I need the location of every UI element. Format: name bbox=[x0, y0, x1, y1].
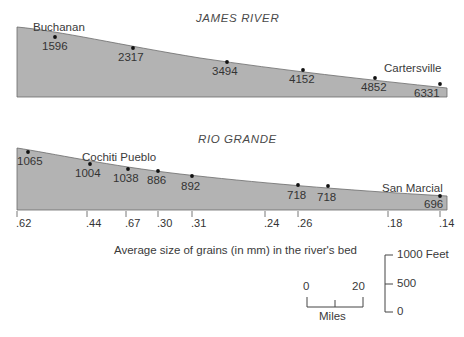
grain-size-tick-label: .67 bbox=[125, 218, 140, 229]
james-river-point-marker bbox=[225, 60, 229, 64]
james-river-value-label: 4152 bbox=[289, 74, 315, 86]
miles-scale-unit-label: Miles bbox=[319, 311, 346, 323]
rio-grande-value-label: 696 bbox=[424, 199, 443, 211]
rio-grande-place-san-marcial: San Marcial bbox=[382, 183, 443, 195]
figure-caption: Average size of grains (in mm) in the ri… bbox=[114, 245, 357, 257]
james-river-point-marker bbox=[438, 82, 442, 86]
rio-grande-place-cochiti-pueblo: Cochiti Pueblo bbox=[82, 152, 156, 164]
james-river-value-label: 6331 bbox=[414, 88, 440, 100]
grain-size-tick-label: .24 bbox=[264, 218, 279, 229]
grain-size-tick-label: .26 bbox=[297, 218, 312, 229]
grain-size-tick-label: .62 bbox=[16, 218, 31, 229]
feet-scale-label-0: 0 bbox=[397, 306, 403, 318]
river-profile-figure: JAMES RIVER Buchanan Cartersville 159623… bbox=[0, 0, 464, 337]
grain-size-tick-marks bbox=[17, 211, 440, 217]
grain-size-tick-label: .30 bbox=[157, 218, 172, 229]
james-river-place-buchanan: Buchanan bbox=[33, 22, 85, 34]
rio-grande-value-label: 1065 bbox=[17, 156, 43, 168]
grain-size-tick-label: .18 bbox=[387, 218, 402, 229]
rio-grande-point-marker bbox=[156, 169, 160, 173]
rio-grande-point-marker bbox=[26, 150, 30, 154]
james-river-point-marker bbox=[131, 46, 135, 50]
rio-grande-point-marker bbox=[296, 183, 300, 187]
feet-scale-bar bbox=[385, 255, 393, 312]
profile-vector-layer bbox=[0, 0, 464, 337]
feet-scale-label-1000: 1000 Feet bbox=[397, 249, 449, 261]
james-river-point-marker bbox=[301, 68, 305, 72]
miles-scale-max-label: 20 bbox=[352, 281, 365, 293]
rio-grande-point-marker bbox=[126, 167, 130, 171]
james-river-point-marker bbox=[373, 76, 377, 80]
miles-scale-bar bbox=[307, 297, 363, 307]
rio-grande-value-label: 718 bbox=[317, 192, 336, 204]
rio-grande-point-marker bbox=[190, 174, 194, 178]
feet-scale-label-500: 500 bbox=[397, 278, 416, 290]
james-river-value-label: 2317 bbox=[118, 52, 144, 64]
james-river-value-label: 4852 bbox=[361, 82, 387, 94]
james-river-point-marker bbox=[53, 35, 57, 39]
rio-grande-value-label: 892 bbox=[181, 181, 200, 193]
grain-size-tick-label: .44 bbox=[86, 218, 101, 229]
rio-grande-title: RIO GRANDE bbox=[198, 134, 277, 146]
rio-grande-value-label: 1038 bbox=[113, 173, 139, 185]
rio-grande-value-label: 718 bbox=[287, 190, 306, 202]
grain-size-tick-label: .14 bbox=[439, 218, 454, 229]
james-river-place-cartersville: Cartersville bbox=[384, 63, 442, 75]
james-river-value-label: 3494 bbox=[212, 66, 238, 78]
rio-grande-value-label: 886 bbox=[147, 175, 166, 187]
james-river-title: JAMES RIVER bbox=[196, 13, 279, 25]
grain-size-tick-label: .31 bbox=[191, 218, 206, 229]
james-river-value-label: 1596 bbox=[42, 41, 68, 53]
rio-grande-value-label: 1004 bbox=[75, 168, 101, 180]
miles-scale-min-label: 0 bbox=[303, 281, 309, 293]
rio-grande-point-marker bbox=[326, 184, 330, 188]
